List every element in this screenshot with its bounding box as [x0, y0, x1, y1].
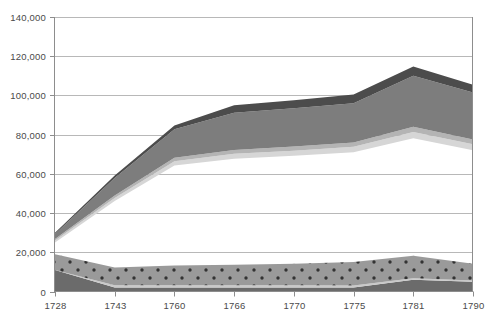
- x-tick-label: 1781: [403, 300, 425, 311]
- y-axis-ticks: 020,00040,00060,00080,000100,000120,0001…: [10, 12, 55, 298]
- x-tick-label: 1760: [164, 300, 186, 311]
- y-tick-label: 100,000: [10, 90, 46, 101]
- y-tick-label: 20,000: [16, 247, 46, 258]
- x-tick-label: 1766: [224, 300, 246, 311]
- y-tick-label: 0: [41, 287, 46, 298]
- y-tick-label: 60,000: [16, 169, 46, 180]
- x-tick-label: 1743: [105, 300, 127, 311]
- x-tick-label: 1775: [344, 300, 366, 311]
- x-tick-label: 1790: [463, 300, 485, 311]
- x-axis-ticks: 17281743176017661770177517811790: [45, 292, 485, 311]
- stacked-area-chart: 020,00040,00060,00080,000100,000120,0001…: [0, 0, 486, 322]
- area-series-group: [55, 67, 473, 292]
- y-tick-label: 120,000: [10, 51, 46, 62]
- chart-container: 020,00040,00060,00080,000100,000120,0001…: [0, 0, 486, 322]
- y-tick-label: 140,000: [10, 12, 46, 23]
- y-tick-label: 40,000: [16, 208, 46, 219]
- x-tick-label: 1770: [284, 300, 306, 311]
- y-tick-label: 80,000: [16, 130, 46, 141]
- area-band-7-main: [55, 76, 473, 239]
- x-tick-label: 1728: [45, 300, 67, 311]
